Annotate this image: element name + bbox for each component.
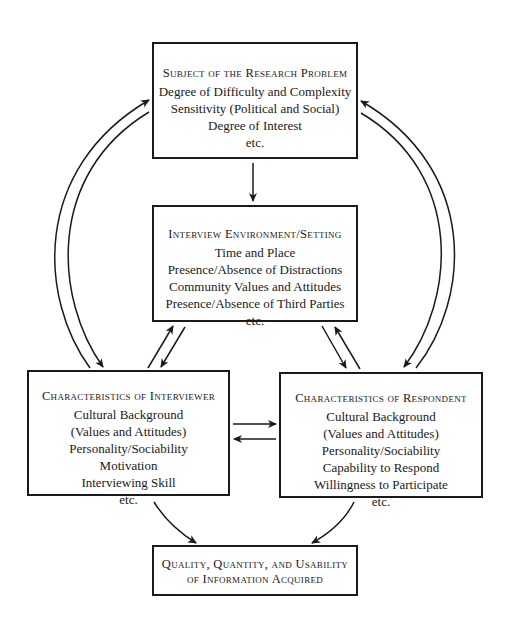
arrow-respondent-to-environment: [335, 327, 360, 369]
node-title: Characteristics of Interviewer: [29, 389, 228, 404]
arrow-subject-to-interviewer: [68, 112, 149, 367]
arrow-environment-to-respondent: [322, 326, 346, 368]
node-line: Willingness to Participate: [281, 476, 481, 493]
node-line: (Values and Attitudes): [281, 425, 481, 442]
node-title: Interview Environment/Setting: [154, 227, 356, 242]
node-title: Subject of the Research Problem: [154, 66, 356, 81]
node-line: etc.: [154, 312, 356, 329]
node-line: Capability to Respond: [281, 459, 481, 476]
node-line: Community Values and Attitudes: [154, 278, 356, 295]
node-line: Interviewing Skill: [29, 474, 228, 491]
node-title-line-1: Quality, Quantity, and Usability: [154, 557, 356, 572]
node-line: Motivation: [29, 457, 228, 474]
node-line: Sensitivity (Political and Social): [154, 100, 356, 117]
node-characteristics-of-respondent: Characteristics of Respondent Cultural B…: [279, 372, 483, 498]
node-line: Cultural Background: [281, 408, 481, 425]
node-subject-of-research-problem: Subject of the Research Problem Degree o…: [152, 42, 358, 159]
node-line: Presence/Absence of Third Parties: [154, 295, 356, 312]
node-line: etc.: [154, 134, 356, 151]
arrow-interviewer-to-outcome: [154, 502, 196, 543]
node-interview-environment: Interview Environment/Setting Time and P…: [152, 205, 358, 322]
arrow-environment-to-interviewer: [161, 327, 185, 367]
node-line: Degree of Difficulty and Complexity: [154, 83, 356, 100]
node-line: Presence/Absence of Distractions: [154, 261, 356, 278]
node-title: Characteristics of Respondent: [281, 391, 481, 406]
node-line: Personality/Sociability: [281, 442, 481, 459]
node-line: etc.: [281, 493, 481, 510]
node-line: Cultural Background: [29, 406, 228, 423]
node-line: etc.: [29, 491, 228, 508]
node-title-line-2: of Information Acquired: [154, 572, 356, 587]
node-characteristics-of-interviewer: Characteristics of Interviewer Cultural …: [27, 370, 230, 496]
node-quality-of-information: Quality, Quantity, and Usability of Info…: [152, 545, 358, 596]
node-line: (Values and Attitudes): [29, 423, 228, 440]
arrow-subject-to-respondent: [361, 113, 441, 367]
node-line: Degree of Interest: [154, 117, 356, 134]
arrow-interviewer-to-environment: [148, 326, 173, 368]
node-line: Personality/Sociability: [29, 440, 228, 457]
node-line: Time and Place: [154, 244, 356, 261]
